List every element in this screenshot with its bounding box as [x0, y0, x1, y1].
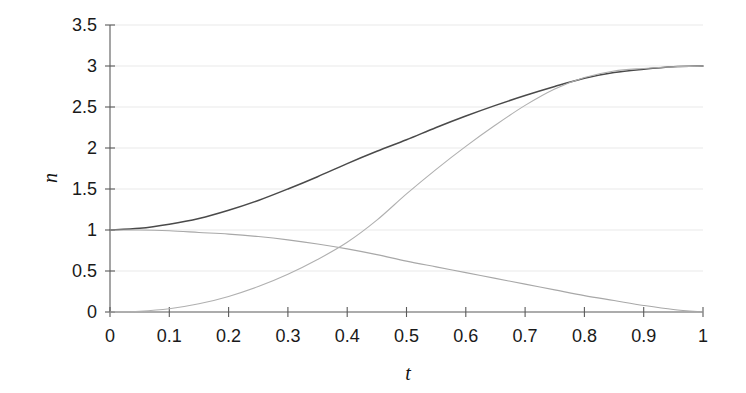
x-tick-label: 0.7 [513, 326, 538, 346]
chart-plot-area: 00.511.522.533.5 00.10.20.30.40.50.60.70… [0, 0, 746, 393]
x-tick-label: 1 [698, 326, 708, 346]
y-tick-labels: 00.511.522.533.5 [72, 15, 97, 322]
x-tick-label: 0.6 [453, 326, 478, 346]
x-axis-title: t [405, 362, 411, 384]
y-tick-label: 3 [87, 56, 97, 76]
x-tick-labels: 00.10.20.30.40.50.60.70.80.91 [105, 326, 708, 346]
x-tick-label: 0.4 [335, 326, 360, 346]
x-tick-label: 0.9 [631, 326, 656, 346]
y-tick-label: 0.5 [72, 261, 97, 281]
y-axis-title: n [39, 173, 61, 183]
x-tick-label: 0 [105, 326, 115, 346]
x-tick-label: 0.3 [275, 326, 300, 346]
x-tick-label: 0.5 [394, 326, 419, 346]
x-tick-label: 0.8 [572, 326, 597, 346]
y-tick-label: 2 [87, 138, 97, 158]
x-tick-label: 0.2 [216, 326, 241, 346]
y-tick-label: 3.5 [72, 15, 97, 35]
y-tick-label: 1.5 [72, 179, 97, 199]
chart-figure: 00.511.522.533.5 00.10.20.30.40.50.60.70… [0, 0, 746, 393]
y-tick-label: 0 [87, 302, 97, 322]
x-tick-label: 0.1 [157, 326, 182, 346]
y-tick-label: 1 [87, 220, 97, 240]
gridlines-group [110, 25, 703, 271]
y-tick-label: 2.5 [72, 97, 97, 117]
